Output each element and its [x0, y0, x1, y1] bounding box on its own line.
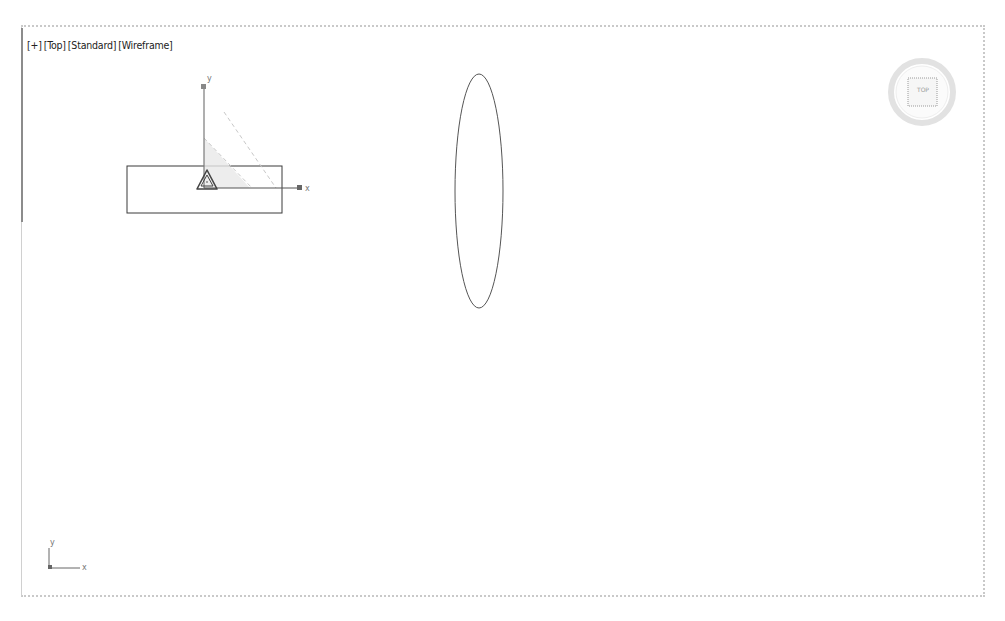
gizmo-y-handle[interactable] [201, 84, 206, 89]
move-gizmo[interactable]: y x [201, 74, 310, 193]
ellipse-object[interactable] [455, 74, 503, 308]
gizmo-x-handle[interactable] [297, 185, 302, 190]
gizmo-y-label: y [207, 74, 212, 83]
world-axis-tripod: y x [48, 538, 87, 572]
world-y-label: y [50, 538, 55, 547]
gizmo-x-label: x [305, 184, 310, 193]
viewcube-face-label: TOP [908, 86, 938, 93]
viewport-scene: y x y x [0, 0, 1005, 621]
world-x-label: x [82, 563, 87, 572]
